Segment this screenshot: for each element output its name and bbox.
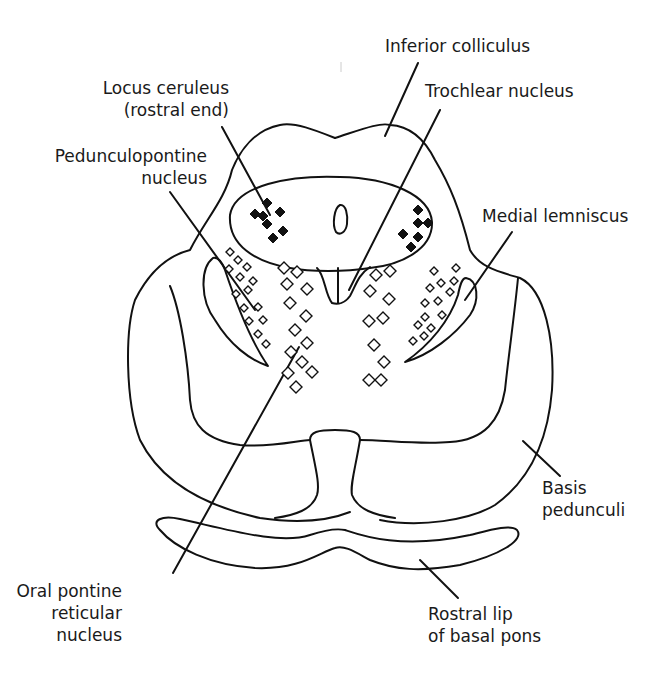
label-line: of basal pons [428, 625, 541, 647]
leader-pedunculopontine [170, 192, 255, 310]
label-line: (rostral end) [103, 99, 229, 121]
medial-lemniscus-right [405, 278, 476, 362]
trochlear-tongue [317, 267, 370, 304]
label-line: nucleus [55, 167, 207, 189]
midline-column [310, 430, 395, 518]
rostral-lip [156, 518, 518, 570]
locus-ceruleus-right-markers [398, 205, 433, 252]
label-line: Locus ceruleus [103, 77, 229, 99]
label-line: Basis [542, 477, 625, 499]
label-basis-pedunculi: Basis pedunculi [542, 477, 625, 521]
label-line: Trochlear nucleus [425, 80, 574, 102]
medial-lemniscus-left [203, 258, 268, 366]
label-trochlear-nucleus: Trochlear nucleus [425, 80, 574, 102]
label-line: Pedunculopontine [55, 145, 207, 167]
label-locus-ceruleus: Locus ceruleus (rostral end) [103, 77, 229, 121]
leader-medial-lemniscus [465, 232, 512, 300]
oral-pontine-right-markers [363, 265, 396, 386]
label-line: Inferior colliculus [385, 35, 530, 57]
label-inferior-colliculus: Inferior colliculus [385, 35, 530, 57]
leader-inferior-colliculus [385, 63, 418, 136]
label-line: pedunculi [542, 499, 625, 521]
label-line: Rostral lip [428, 603, 541, 625]
midline-column-left [275, 440, 318, 518]
label-oral-pontine-reticular-nucleus: Oral pontine reticular nucleus [16, 580, 122, 646]
label-pedunculopontine-nucleus: Pedunculopontine nucleus [55, 145, 207, 189]
label-line: nucleus [16, 624, 122, 646]
label-line: reticular [16, 602, 122, 624]
label-rostral-lip-basal-pons: Rostral lip of basal pons [428, 603, 541, 647]
label-line: Oral pontine [16, 580, 122, 602]
cerebral-aqueduct [334, 205, 347, 234]
pedunculopontine-right-markers [409, 264, 460, 345]
periaqueductal-oval [230, 177, 432, 271]
locus-ceruleus-left-markers [250, 198, 288, 243]
label-medial-lemniscus: Medial lemniscus [482, 205, 628, 227]
label-line: Medial lemniscus [482, 205, 628, 227]
oral-pontine-left-markers [278, 262, 318, 393]
